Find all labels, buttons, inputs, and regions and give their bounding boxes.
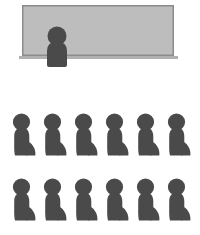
whiteboard-hit-area[interactable] [22, 5, 174, 59]
student-torso-icon [169, 193, 184, 221]
student-torso-icon [76, 128, 91, 156]
student-torso-icon [14, 128, 29, 156]
student-torso-icon [107, 193, 122, 221]
student-torso-icon [76, 193, 91, 221]
student-torso-icon [14, 193, 29, 221]
student-torso-icon [107, 128, 122, 156]
student-torso-icon [138, 128, 153, 156]
classroom-scene: Classroom with teacher at whiteboard and… [0, 0, 200, 235]
student-torso-icon [138, 193, 153, 221]
student-torso-icon [169, 128, 184, 156]
student-torso-icon [45, 193, 60, 221]
student-torso-icon [45, 128, 60, 156]
